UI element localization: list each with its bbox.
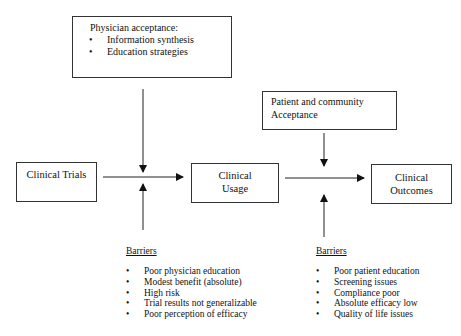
clinical-outcomes-line1: Clinical [372, 165, 451, 184]
list-item: Absolute efficacy low [316, 298, 419, 309]
physician-acceptance-box: Physician acceptance: Information synthe… [72, 16, 232, 78]
right-barriers-list: Poor patient education Screening issues … [316, 266, 419, 320]
list-item: High risk [126, 288, 257, 299]
patient-acceptance-box: Patient and community Acceptance [262, 91, 397, 130]
patient-acceptance-line1: Patient and community [271, 96, 364, 108]
patient-acceptance-line2: Acceptance [271, 109, 318, 121]
list-item: Poor perception of efficacy [126, 309, 257, 320]
left-barriers-list: Poor physician education Modest benefit … [126, 266, 257, 320]
clinical-trials-label: Clinical Trials [17, 163, 96, 181]
clinical-outcomes-line2: Outcomes [372, 184, 451, 197]
clinical-usage-box: Clinical Usage [191, 163, 279, 203]
clinical-trials-box: Clinical Trials [16, 162, 97, 202]
list-item: Modest benefit (absolute) [126, 277, 257, 288]
list-item: Quality of life issues [316, 309, 419, 320]
list-item: Trial results not generalizable [126, 298, 257, 309]
list-item: Screening issues [316, 277, 419, 288]
right-barriers-title: Barriers [316, 245, 347, 257]
clinical-usage-line1: Clinical [192, 164, 278, 182]
list-item: Compliance poor [316, 288, 419, 299]
physician-acceptance-title: Physician acceptance: [90, 22, 178, 34]
clinical-usage-line2: Usage [192, 182, 278, 195]
left-barriers-title: Barriers [126, 245, 157, 257]
list-item: Education strategies [89, 46, 194, 58]
list-item: Poor physician education [126, 266, 257, 277]
clinical-outcomes-box: Clinical Outcomes [371, 164, 452, 204]
physician-acceptance-list: Information synthesis Education strategi… [89, 34, 194, 57]
list-item: Poor patient education [316, 266, 419, 277]
list-item: Information synthesis [89, 34, 194, 46]
